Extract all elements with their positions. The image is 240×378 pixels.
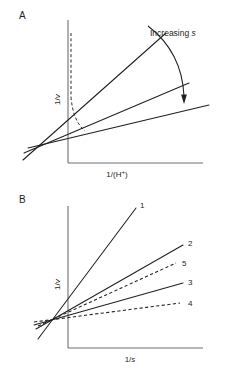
panel-b-label-1: 1	[140, 201, 145, 210]
panel-b: B 1 2 5 3 4 1/v 1/s	[19, 194, 203, 364]
panel-a-line-high	[23, 33, 166, 160]
panel-b-line-5	[38, 263, 176, 326]
panel-b-letter: B	[19, 194, 26, 205]
panel-b-label-5: 5	[182, 259, 187, 268]
panel-b-label-4: 4	[188, 299, 193, 308]
panel-a-dashed-arc	[71, 97, 85, 131]
panel-a-x-axis-label: 1/(H+)	[106, 169, 128, 179]
increasing-s-label: Increasing s	[150, 28, 197, 38]
increasing-s-arrow-head	[181, 95, 187, 105]
panel-a-letter: A	[19, 10, 26, 21]
panel-a-line-low	[28, 105, 209, 148]
panel-a: A Increasing s 1/v 1/(H+)	[19, 10, 209, 179]
panel-b-label-3: 3	[188, 278, 193, 287]
figure-svg: A Increasing s 1/v 1/(H+) B	[0, 0, 240, 378]
panel-a-line-mid	[24, 83, 189, 153]
panel-b-y-axis-label: 1/v	[53, 278, 62, 290]
panel-a-y-axis-label: 1/v	[53, 93, 62, 105]
panel-b-x-axis-label: 1/s	[125, 355, 136, 364]
figure-container: A Increasing s 1/v 1/(H+) B	[0, 0, 240, 378]
panel-b-label-2: 2	[188, 239, 193, 248]
